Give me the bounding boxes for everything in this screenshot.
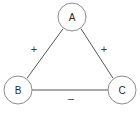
triangle-graph-canvas: A B C + + – (0, 0, 140, 115)
edge-a-b-sign: + (31, 43, 37, 55)
edge-a-c (81, 29, 113, 78)
node-b-label: B (15, 85, 22, 96)
edge-b-c-sign: – (68, 92, 75, 104)
node-a-label: A (69, 12, 76, 23)
node-c-label: C (118, 85, 125, 96)
edge-a-c-sign: + (101, 43, 107, 55)
signed-triangle-diagram: A B C + + – (0, 0, 140, 115)
